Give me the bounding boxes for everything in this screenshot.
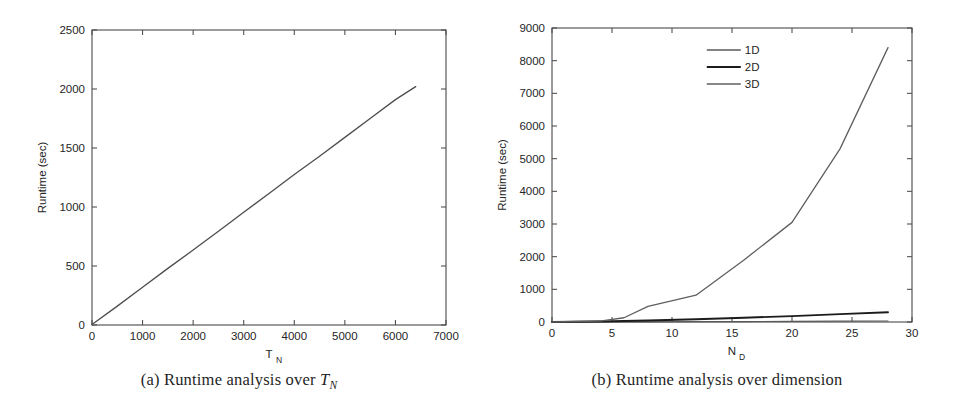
x-tick-label: 3000 [231, 330, 257, 342]
x-tick-label: 5000 [332, 330, 358, 342]
series-line-3D [552, 48, 888, 322]
panel-b: 0510152025300100020003000400050006000700… [478, 0, 956, 417]
series-line-runtime [92, 87, 416, 325]
x-tick-label: 1000 [130, 330, 156, 342]
y-axis-title: Runtime (sec) [36, 142, 48, 214]
y-tick-label: 7000 [519, 87, 545, 99]
x-tick-label: 5 [609, 327, 615, 339]
caption-a-math-sub: N [329, 379, 337, 391]
y-tick-label: 4000 [519, 185, 545, 197]
x-tick-label: 0 [549, 327, 555, 339]
caption-b-prefix: (b) [592, 370, 612, 389]
y-tick-label: 0 [79, 319, 85, 331]
y-tick-label: 2000 [519, 251, 545, 263]
y-tick-label: 1000 [59, 201, 85, 213]
x-tick-label: 25 [846, 327, 859, 339]
caption-b: (b) Runtime analysis over dimension [478, 370, 956, 390]
y-tick-label: 9000 [519, 22, 545, 34]
y-tick-label: 5000 [519, 153, 545, 165]
y-tick-label: 2000 [59, 83, 85, 95]
y-tick-label: 0 [539, 316, 545, 328]
x-tick-label: 6000 [383, 330, 409, 342]
x-tick-label: 2000 [180, 330, 206, 342]
legend-label-1D: 1D [745, 44, 760, 56]
y-tick-label: 2500 [59, 24, 85, 36]
x-tick-label: 20 [786, 327, 799, 339]
runtime-vs-dimension-chart: 0510152025300100020003000400050006000700… [478, 0, 956, 417]
x-tick-label: 15 [726, 327, 739, 339]
x-tick-label: 7000 [433, 330, 459, 342]
legend-label-3D: 3D [745, 78, 760, 90]
y-tick-label: 3000 [519, 218, 545, 230]
x-axis-title: T [265, 348, 272, 360]
plot-frame [92, 30, 446, 325]
x-tick-label: 10 [666, 327, 679, 339]
y-tick-label: 8000 [519, 55, 545, 67]
caption-b-text: Runtime analysis over dimension [616, 370, 843, 389]
x-tick-label: 4000 [281, 330, 307, 342]
plot-frame [552, 28, 912, 322]
x-axis-title-subscript: D [739, 352, 745, 362]
y-tick-label: 6000 [519, 120, 545, 132]
x-axis-title: N [728, 345, 736, 357]
panel-a: 0100020003000400050006000700005001000150… [0, 0, 478, 417]
y-tick-label: 500 [66, 260, 85, 272]
figure-row: 0100020003000400050006000700005001000150… [0, 0, 956, 417]
caption-a: (a) Runtime analysis over TN [0, 370, 478, 391]
x-axis-title-subscript: N [276, 355, 282, 365]
runtime-vs-tn-chart: 0100020003000400050006000700005001000150… [0, 0, 478, 417]
legend-label-2D: 2D [745, 61, 760, 73]
y-tick-label: 1000 [519, 283, 545, 295]
caption-a-math-base: T [320, 370, 329, 389]
x-tick-label: 30 [906, 327, 919, 339]
y-axis-title: Runtime (sec) [496, 139, 508, 211]
caption-a-text: Runtime analysis over [164, 370, 316, 389]
x-tick-label: 0 [89, 330, 95, 342]
y-tick-label: 1500 [59, 142, 85, 154]
caption-a-prefix: (a) [141, 370, 160, 389]
